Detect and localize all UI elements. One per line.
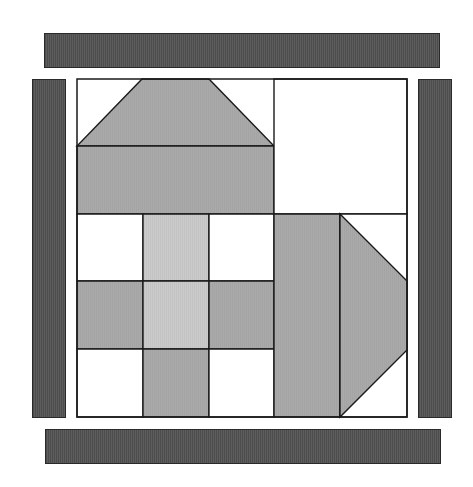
nine-patch-r2c2 xyxy=(143,281,209,349)
nine-patch-r3c3 xyxy=(209,349,274,417)
nine-patch-r1c3 xyxy=(209,214,274,281)
nine-patch-r3c1 xyxy=(77,349,143,417)
quilt-block xyxy=(0,0,473,487)
top-right-square xyxy=(274,79,407,214)
nine-patch-r1c1 xyxy=(77,214,143,281)
nine-patch-r3c2 xyxy=(143,349,209,417)
nine-patch-r2c1 xyxy=(77,281,143,349)
roof-trapezoid xyxy=(77,79,274,146)
nine-patch-r2c3 xyxy=(209,281,274,349)
quilt-pieces xyxy=(77,79,407,417)
house-body xyxy=(77,146,274,214)
nine-patch-r1c2 xyxy=(143,214,209,281)
right-column-rect xyxy=(274,214,340,417)
